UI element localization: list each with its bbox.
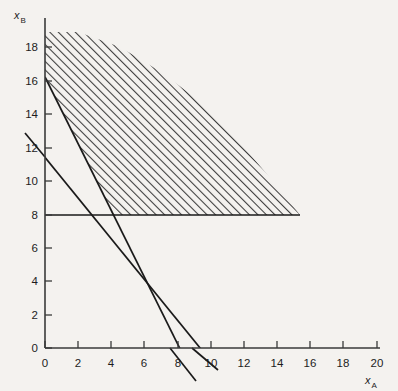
y-tick-label-18: 18 bbox=[25, 41, 38, 53]
x-tick-label-6: 6 bbox=[141, 357, 147, 369]
y-tick-label-4: 4 bbox=[32, 275, 39, 287]
x-tick-label-0: 0 bbox=[42, 357, 48, 369]
y-tick-label-16: 16 bbox=[25, 75, 38, 87]
x-tick-label-2: 2 bbox=[75, 357, 81, 369]
y-tick-label-14: 14 bbox=[25, 108, 38, 120]
y-tick-label-8: 8 bbox=[32, 209, 38, 221]
y-axis-label-subscript: B bbox=[21, 16, 26, 25]
x-tick-label-8: 8 bbox=[175, 357, 181, 369]
plot-svg: 0 2 4 6 8 10 12 14 16 18 20 0 2 bbox=[0, 0, 398, 391]
y-tick-label-12: 12 bbox=[25, 142, 38, 154]
x-tick-label-12: 12 bbox=[238, 357, 251, 369]
x-axis-label-subscript: A bbox=[372, 381, 378, 390]
x-tick-label-18: 18 bbox=[337, 357, 350, 369]
x-tick-label-16: 16 bbox=[304, 357, 317, 369]
y-tick-label-10: 10 bbox=[25, 175, 38, 187]
chart-figure: 0 2 4 6 8 10 12 14 16 18 20 0 2 bbox=[0, 0, 398, 391]
y-axis-label-main: x bbox=[13, 9, 20, 21]
x-tick-label-14: 14 bbox=[271, 357, 284, 369]
x-tick-label-10: 10 bbox=[205, 357, 218, 369]
y-tick-label-2: 2 bbox=[32, 309, 38, 321]
x-axis-label-main: x bbox=[364, 374, 371, 386]
y-tick-label-0: 0 bbox=[32, 342, 38, 354]
x-tick-label-4: 4 bbox=[108, 357, 115, 369]
y-tick-label-6: 6 bbox=[32, 242, 38, 254]
x-tick-label-20: 20 bbox=[371, 357, 384, 369]
